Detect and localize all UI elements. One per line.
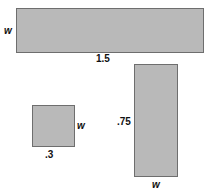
tall-rectangle-width-label: w bbox=[152, 180, 160, 190]
geometry-figure: w 1.5 w .3 .75 w bbox=[0, 0, 209, 194]
tall-rectangle-shape bbox=[134, 64, 178, 177]
small-square-width-label: .3 bbox=[45, 150, 53, 160]
wide-rectangle-width-label: 1.5 bbox=[96, 54, 110, 64]
small-square-height-label: w bbox=[77, 121, 85, 131]
wide-rectangle-height-label: w bbox=[4, 26, 12, 36]
tall-rectangle-height-label: .75 bbox=[117, 117, 131, 127]
wide-rectangle-shape bbox=[16, 8, 204, 53]
small-square-shape bbox=[32, 105, 75, 147]
